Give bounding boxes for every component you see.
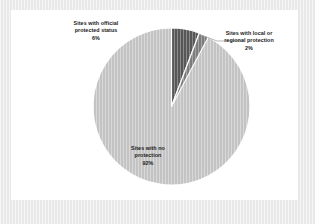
pie-label-official-line-1: Sites with official xyxy=(74,20,119,26)
pie-label-no-protection-line-1: Sites with no xyxy=(131,145,165,151)
pie-label-official-percent: 6% xyxy=(57,35,135,42)
pie-label-local-line-1: Sites with local or xyxy=(226,30,273,36)
pie-label-local-percent: 2% xyxy=(207,45,291,52)
pie-label-no-protection-percent: 92% xyxy=(106,160,190,167)
slide-canvas: Sites with official protected status 6% … xyxy=(0,0,315,224)
pie-label-local-regional-protection: Sites with local or regional protection … xyxy=(207,30,291,52)
pie-label-official-line-2: protected status xyxy=(75,27,118,33)
chart-panel: Sites with official protected status 6% … xyxy=(11,10,298,200)
pie-label-no-protection-line-2: protection xyxy=(135,152,162,158)
pie-label-official-protected-status: Sites with official protected status 6% xyxy=(57,20,135,42)
pie-label-local-line-2: regional protection xyxy=(224,37,274,43)
pie-label-no-protection: Sites with no protection 92% xyxy=(106,145,190,167)
